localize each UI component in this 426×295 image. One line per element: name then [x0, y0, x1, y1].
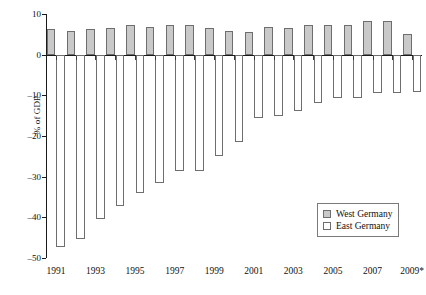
- y-axis-tick-mark: [42, 95, 46, 96]
- bar-west-germany: [403, 34, 412, 55]
- x-axis-tick-label: 2001: [244, 266, 263, 276]
- x-axis-tick-mark: [135, 56, 136, 60]
- x-axis-tick-mark: [115, 56, 116, 60]
- legend-item-west-germany: West Germany: [323, 208, 392, 220]
- bar-west-germany: [67, 31, 76, 55]
- bar-west-germany: [383, 21, 392, 55]
- bar-west-germany: [185, 25, 194, 55]
- y-axis-tick-mark: [42, 14, 46, 15]
- x-axis-tick-mark: [194, 56, 195, 60]
- legend-swatch-east-germany: [323, 222, 331, 230]
- legend-swatch-west-germany: [323, 210, 331, 218]
- x-axis-tick-mark: [412, 56, 413, 60]
- bar-east-germany: [175, 55, 184, 171]
- x-axis-tick-label: 2007: [363, 266, 382, 276]
- bar-east-germany: [333, 55, 342, 98]
- bar-east-germany: [56, 55, 65, 247]
- x-axis-tick-mark: [95, 56, 96, 60]
- gdp-bar-chart: % of GDP 100–10–20–30–40–501991199319951…: [0, 0, 426, 295]
- x-axis-tick-mark: [333, 56, 334, 60]
- bar-west-germany: [47, 29, 56, 55]
- x-axis-tick-label: 1997: [165, 266, 184, 276]
- x-axis-tick-mark: [175, 56, 176, 60]
- y-axis-tick-mark: [42, 55, 46, 56]
- x-axis-tick-mark: [392, 56, 393, 60]
- bar-west-germany: [205, 28, 214, 54]
- x-axis-tick-mark: [234, 56, 235, 60]
- legend-label-west-germany: West Germany: [336, 208, 392, 220]
- bar-east-germany: [116, 55, 125, 207]
- bar-west-germany: [86, 29, 95, 55]
- bar-west-germany: [106, 28, 115, 55]
- y-axis-tick-mark: [42, 136, 46, 137]
- bar-east-germany: [373, 55, 382, 94]
- bar-west-germany: [264, 27, 273, 55]
- bar-west-germany: [363, 21, 372, 55]
- bar-west-germany: [126, 25, 135, 54]
- bar-east-germany: [294, 55, 303, 112]
- bar-east-germany: [136, 55, 145, 193]
- bar-east-germany: [195, 55, 204, 172]
- bar-west-germany: [146, 27, 155, 55]
- x-axis-tick-mark: [76, 56, 77, 60]
- x-axis-tick-mark: [274, 56, 275, 60]
- x-axis-tick-mark: [214, 56, 215, 60]
- bar-west-germany: [324, 25, 333, 55]
- bar-east-germany: [393, 55, 402, 93]
- x-axis-tick-label: 2005: [323, 266, 342, 276]
- x-axis-tick-label: 1993: [86, 266, 105, 276]
- x-axis-tick-mark: [373, 56, 374, 60]
- bar-west-germany: [344, 25, 353, 55]
- x-axis-tick-label: 1999: [205, 266, 224, 276]
- bar-east-germany: [235, 55, 244, 142]
- legend-item-east-germany: East Germany: [323, 220, 392, 232]
- x-axis-tick-label: 1991: [46, 266, 65, 276]
- bar-east-germany: [215, 55, 224, 156]
- x-axis-tick-label: 1995: [126, 266, 145, 276]
- y-axis-tick-mark: [42, 217, 46, 218]
- x-axis-tick-mark: [293, 56, 294, 60]
- bar-east-germany: [96, 55, 105, 219]
- x-axis-tick-mark: [56, 56, 57, 60]
- x-axis-tick-label: 2003: [284, 266, 303, 276]
- y-axis-tick-mark: [42, 177, 46, 178]
- bar-west-germany: [225, 31, 234, 55]
- x-axis-tick-mark: [254, 56, 255, 60]
- bar-west-germany: [304, 25, 313, 55]
- bar-west-germany: [245, 32, 254, 55]
- bar-east-germany: [353, 55, 362, 98]
- legend-label-east-germany: East Germany: [336, 220, 390, 232]
- bar-east-germany: [413, 55, 422, 92]
- y-axis-tick-mark: [42, 258, 46, 259]
- x-axis-tick-mark: [353, 56, 354, 60]
- x-axis-tick-mark: [313, 56, 314, 60]
- bar-east-germany: [76, 55, 85, 240]
- x-axis-tick-mark: [155, 56, 156, 60]
- bar-west-germany: [284, 28, 293, 55]
- chart-legend: West Germany East Germany: [317, 203, 399, 237]
- bar-east-germany: [155, 55, 164, 184]
- bar-east-germany: [254, 55, 263, 118]
- bar-east-germany: [314, 55, 323, 104]
- bar-west-germany: [166, 25, 175, 55]
- x-axis-tick-label: 2009*: [400, 266, 424, 276]
- bar-east-germany: [274, 55, 283, 116]
